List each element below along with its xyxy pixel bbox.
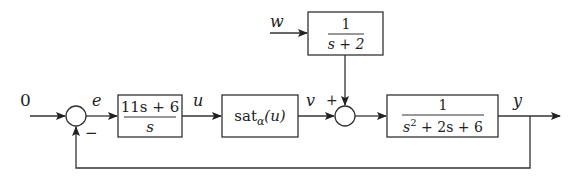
sum1-minus-sign: − — [85, 124, 98, 142]
control-label: u — [193, 91, 203, 110]
plant-numerator: 1 — [439, 97, 448, 113]
disturbance-label: w — [270, 12, 284, 31]
summing-junction-2 — [335, 106, 355, 126]
controller-denominator: s — [146, 118, 154, 136]
output-label: y — [512, 91, 523, 110]
reference-input-label: 0 — [20, 90, 31, 110]
summing-junction-1 — [66, 106, 86, 126]
disturbance-denominator: s + 2 — [328, 36, 365, 52]
saturated-label: v — [306, 91, 315, 110]
error-label: e — [92, 91, 101, 110]
sum2-plus-sign: + — [326, 92, 338, 108]
disturbance-numerator: 1 — [342, 16, 351, 32]
controller-numerator: 11s + 6 — [121, 98, 179, 116]
block-diagram: 0 e − u v + w y 11s + 6 s satα(u) 1 s + … — [0, 0, 577, 187]
